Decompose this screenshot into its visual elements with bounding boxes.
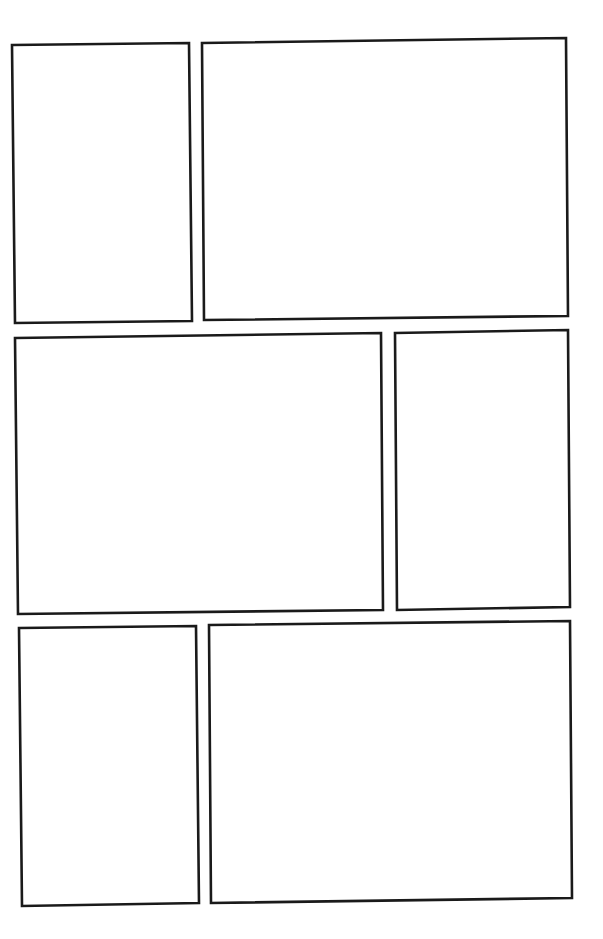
- panel-2: [202, 38, 568, 320]
- panel-3: [15, 333, 383, 614]
- panel-4: [395, 330, 570, 610]
- panel-layout: [0, 0, 603, 939]
- panel-1: [12, 43, 192, 323]
- panel-5: [19, 626, 199, 906]
- comic-page: [0, 0, 603, 939]
- panel-6: [209, 621, 572, 903]
